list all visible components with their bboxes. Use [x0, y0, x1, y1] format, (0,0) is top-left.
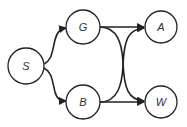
node-w: W	[145, 86, 177, 118]
node-g: G	[66, 10, 100, 44]
directed-graph-diagram: S G B A W	[0, 0, 187, 127]
edge-s-g	[44, 28, 66, 64]
node-g-label: G	[79, 21, 88, 33]
edge-b-a	[100, 28, 144, 102]
edge-s-b	[44, 68, 66, 101]
node-a: A	[145, 11, 177, 43]
node-s: S	[8, 48, 44, 84]
node-b-label: B	[79, 96, 86, 108]
node-w-label: W	[156, 96, 168, 108]
node-b: B	[66, 85, 100, 119]
node-s-label: S	[22, 60, 30, 72]
edge-g-w	[100, 27, 144, 101]
node-a-label: A	[156, 21, 164, 33]
